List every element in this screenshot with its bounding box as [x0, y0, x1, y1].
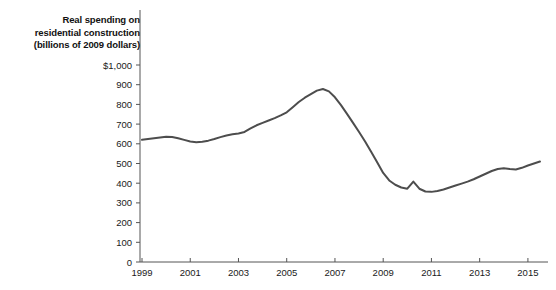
y-axis-tick-label: 200 [116, 217, 132, 228]
x-axis-tick-label: 1999 [131, 267, 152, 278]
x-axis-tick-label: 2013 [469, 267, 490, 278]
y-axis-tick-label: 100 [116, 237, 132, 248]
y-axis-tick-label: 900 [116, 79, 132, 90]
x-axis-tick-label: 2003 [228, 267, 249, 278]
y-axis-tick-label: 500 [116, 158, 132, 169]
chart-title: Real spending on residential constructio… [8, 14, 140, 52]
chart-title-line-2: residential construction [8, 27, 140, 40]
y-axis-tick-label: $1,000 [103, 60, 132, 71]
x-axis: 199920012003200520072009201120132015 [131, 258, 548, 278]
chart-title-line-3: (billions of 2009 dollars) [8, 39, 140, 52]
data-line-residential-construction [142, 89, 540, 192]
chart-container: Real spending on residential constructio… [0, 0, 556, 290]
chart-title-line-1: Real spending on [8, 14, 140, 27]
y-axis-tick-label: 400 [116, 178, 132, 189]
x-axis-tick-label: 2015 [517, 267, 538, 278]
x-axis-tick-label: 2007 [324, 267, 345, 278]
y-axis-tick-label: 800 [116, 99, 132, 110]
y-axis-tick-label: 300 [116, 197, 132, 208]
x-axis-tick-label: 2005 [276, 267, 297, 278]
y-axis-tick-label: 700 [116, 119, 132, 130]
x-axis-tick-label: 2001 [180, 267, 201, 278]
y-axis-tick-label: 600 [116, 138, 132, 149]
y-axis-tick-label: 0 [127, 257, 132, 268]
x-axis-tick-label: 2009 [373, 267, 394, 278]
x-axis-tick-label: 2011 [421, 267, 441, 278]
